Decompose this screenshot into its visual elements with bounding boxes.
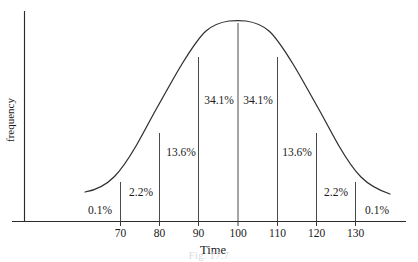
pct-label-right-mid: 13.6% xyxy=(282,146,312,158)
x-tick-label-120: 120 xyxy=(308,227,326,239)
pct-label-right-core: 34.1% xyxy=(243,94,273,106)
x-tick-label-80: 80 xyxy=(154,227,166,239)
x-tick-label-90: 90 xyxy=(193,227,205,239)
normal-distribution-chart: 70 80 90 100 110 120 130 0.1% 2.2% 13.6%… xyxy=(0,0,418,262)
figure-caption: Fig. 17.7 xyxy=(0,250,418,261)
x-tick-label-130: 130 xyxy=(347,227,365,239)
pct-label-left-outer: 0.1% xyxy=(88,204,112,216)
pct-label-left-mid: 13.6% xyxy=(166,146,196,158)
pct-label-right-tail: 2.2% xyxy=(324,186,348,198)
chart-canvas: 70 80 90 100 110 120 130 0.1% 2.2% 13.6%… xyxy=(0,0,418,262)
x-tick-label-70: 70 xyxy=(115,227,127,239)
x-tick-label-100: 100 xyxy=(229,227,247,239)
y-axis-title: frequency xyxy=(4,98,16,142)
pct-label-right-outer: 0.1% xyxy=(365,204,389,216)
pct-label-left-tail: 2.2% xyxy=(129,186,153,198)
x-tick-label-110: 110 xyxy=(269,227,286,239)
pct-label-left-core: 34.1% xyxy=(204,94,234,106)
